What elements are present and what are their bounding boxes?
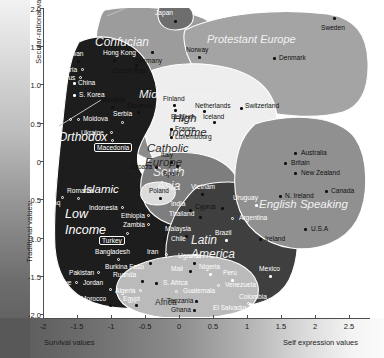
point-label-burkina: Burkina Faso <box>105 264 144 271</box>
y-tickmark-4 <box>40 161 44 162</box>
point-label-vietnam: Vietnam <box>191 184 215 191</box>
point-dot-hongkong <box>113 59 116 62</box>
y-tickmark-0 <box>40 8 44 9</box>
x-axis-label-left: Survival values <box>44 338 94 347</box>
point-label-china: China <box>78 80 95 87</box>
point-dot-croatia <box>155 166 158 169</box>
point-label-japan: Japan <box>155 10 173 17</box>
point-dot-canada <box>325 190 328 193</box>
point-dot-uruguay <box>255 204 258 207</box>
point-label-germany: Germany <box>135 58 162 65</box>
x-tick--1.5: -1.5 <box>62 322 92 331</box>
point-label-argentina: Argentina <box>239 215 267 222</box>
point-label-denmark: Denmark <box>279 55 306 62</box>
point-label-algeria: Algeria <box>115 288 136 295</box>
point-dot-thailand <box>199 216 202 219</box>
x-tick-0.5: 0.5 <box>198 322 228 331</box>
point-label-guatemala: Guatemala <box>183 288 215 295</box>
point-label-colombia: Colombia <box>239 294 267 301</box>
point-dot-slovenia <box>137 111 140 114</box>
point-label-nigeria: Nigeria <box>199 264 220 271</box>
x-tickmark-8 <box>315 315 316 319</box>
point-dot-taiwan <box>77 60 80 63</box>
point-label-australia: Australia <box>301 150 327 157</box>
y-tickmark-6 <box>40 238 44 239</box>
point-dot-spain <box>176 165 179 168</box>
point-label-france: France <box>175 126 196 133</box>
y-tick-2.0: 2.0 <box>16 5 41 14</box>
point-label-slovenia: Slovenia <box>127 103 152 110</box>
y-axis-label-bottom-text: Traditional values <box>25 202 34 262</box>
point-dot-uganda <box>193 262 196 265</box>
x-tick-2.5: 2.5 <box>334 322 364 331</box>
point-label-skorea: S. Korea <box>79 92 105 99</box>
point-dot-ghana <box>193 309 196 312</box>
point-label-belgium: Belgium <box>171 114 195 121</box>
point-label-russia: Russia <box>43 115 63 122</box>
point-dot-burkina <box>149 262 152 265</box>
point-label-nireland: N. Ireland <box>285 193 314 200</box>
x-tickmark-0 <box>43 315 44 319</box>
point-label-ethiopia: Ethiopia <box>121 213 145 220</box>
point-label-macedonia: Macedonia <box>94 143 132 152</box>
x-tick-1: 1 <box>232 322 262 331</box>
y-tickmark-2 <box>40 84 44 85</box>
point-label-pakistan: Pakistan <box>69 270 94 277</box>
point-label-mali: Mali <box>171 266 183 273</box>
region-label-latin: Latin <box>191 234 217 247</box>
region-label-confucian: Confucian <box>95 36 149 49</box>
y-tick--0.5: -0.5 <box>16 196 41 205</box>
point-label-poland: Poland <box>149 188 169 194</box>
point-label-elsalvador: El Salvador <box>213 305 247 312</box>
point-dot-norway <box>198 56 201 59</box>
point-dot-mali <box>189 270 192 273</box>
gradient-corner <box>0 318 30 358</box>
point-dot-switzerland <box>240 107 243 110</box>
y-tickmark-3 <box>40 123 44 124</box>
point-label-taiwan: Taiwan <box>63 51 84 58</box>
point-label-bulgaria: Bulgaria <box>53 67 77 74</box>
point-label-ruanda: Ruanda <box>113 272 136 279</box>
point-label-luxembourg: Luxembourg <box>175 134 212 141</box>
point-label-sweden: Sweden <box>321 25 345 32</box>
cultural-map-chart: Secular-rational values Traditional valu… <box>0 0 384 358</box>
point-label-serbia: Serbia <box>113 111 132 118</box>
point-dot-germany <box>151 51 154 54</box>
point-label-venezuela: Venezuela <box>225 282 256 289</box>
point-dot-ruanda <box>141 280 144 283</box>
point-label-spain: Spain <box>163 171 180 178</box>
point-dot-newzealand <box>294 172 297 175</box>
point-label-zambia: Zambia <box>123 222 145 229</box>
point-label-brazil: Brazil <box>215 230 232 237</box>
point-label-iran: Iran <box>147 249 158 256</box>
x-tickmark-9 <box>349 315 350 319</box>
point-label-india: India <box>171 201 185 208</box>
y-tickmark-1 <box>40 46 44 47</box>
x-tickmark-4 <box>179 315 180 319</box>
cluster-english-speaking <box>235 117 366 249</box>
point-label-uganda: Uganda <box>178 253 201 260</box>
point-dot-iceland <box>213 121 216 124</box>
point-dot-poland <box>159 197 162 200</box>
point-label-turkey: Turkey <box>99 236 125 245</box>
x-tickmark-3 <box>145 315 146 319</box>
point-dot-czech <box>135 64 138 67</box>
point-dot-tanzania <box>195 300 198 303</box>
point-dot-britain <box>284 162 287 165</box>
point-dot-brazil <box>225 239 228 242</box>
point-label-italy: Italy <box>161 152 173 159</box>
point-label-czech: Czech Rep. <box>113 68 147 75</box>
y-tick--2.0: -2.0 <box>16 311 41 320</box>
x-tick-0: 0 <box>164 322 194 331</box>
y-tickmark-7 <box>40 276 44 277</box>
point-dot-denmark <box>273 57 276 60</box>
point-label-egypt: Egypt <box>123 296 140 303</box>
point-dot-cyprus <box>221 207 224 210</box>
x-tick-2: 2 <box>300 322 330 331</box>
point-label-jordan: Jordan <box>83 280 103 287</box>
point-label-usa: U.S.A <box>311 226 328 233</box>
x-axis-line <box>43 318 370 319</box>
point-dot-egypt <box>135 304 138 307</box>
y-tick-1.0: 1.0 <box>16 81 41 90</box>
y-tickmark-5 <box>40 199 44 200</box>
